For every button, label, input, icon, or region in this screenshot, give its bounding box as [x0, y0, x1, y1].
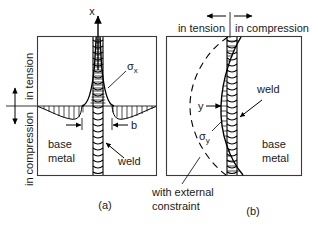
- panel-a-base-metal-label-line1: base: [48, 138, 72, 150]
- panel-b-weld-arrow: [240, 100, 262, 117]
- panel-a-base-metal-label-line2: metal: [48, 152, 75, 164]
- axis-label-in-compression: in compression: [23, 112, 35, 186]
- panel-b-in-tension-label: in tension: [178, 22, 225, 34]
- panel-b-constraint-leader: [182, 157, 200, 184]
- panel-b-sigma-y-leader: [212, 122, 221, 131]
- panel-a-compression-curve-right: [112, 106, 156, 119]
- panel-b-base-metal-label-line2: metal: [262, 152, 289, 164]
- panel-a-left-axis: in tension in compression: [6, 53, 37, 186]
- panel-a-weld-label: weld: [117, 155, 141, 167]
- panel-b-constraint-label-line1: with external: [151, 186, 214, 198]
- panel-b-base-metal-label-line1: base: [262, 138, 286, 150]
- panel-a-caption: (a): [98, 199, 111, 211]
- panel-a-compression-hatching-right: [113, 106, 152, 119]
- panel-a-compression-curve-left: [38, 106, 82, 119]
- panel-a-b-label: b: [131, 119, 137, 131]
- panel-b-constraint-label-line2: constraint: [152, 200, 200, 212]
- panel-b-weld-label: weld: [256, 83, 280, 95]
- panel-b-caption: (b): [246, 205, 259, 217]
- panel-a: x: [38, 5, 157, 211]
- panel-a-sigma-x-label: σx: [127, 60, 138, 75]
- axis-label-in-tension: in tension: [23, 53, 35, 100]
- panel-b-y-axis-label: y: [198, 100, 204, 112]
- panel-a-x-axis-label: x: [89, 5, 95, 17]
- panel-b-in-compression-label: in compression: [235, 22, 309, 34]
- panel-b: in tension in compression: [151, 12, 309, 217]
- panel-b-sigma-y-label: σy: [199, 130, 210, 145]
- panel-a-sigma-x-leader: [108, 71, 126, 88]
- welding-residual-stress-figure: in tension in compression x: [0, 0, 318, 229]
- panel-a-sigma-x-curve-right: [100, 37, 114, 106]
- panel-b-weld-column: [227, 37, 237, 175]
